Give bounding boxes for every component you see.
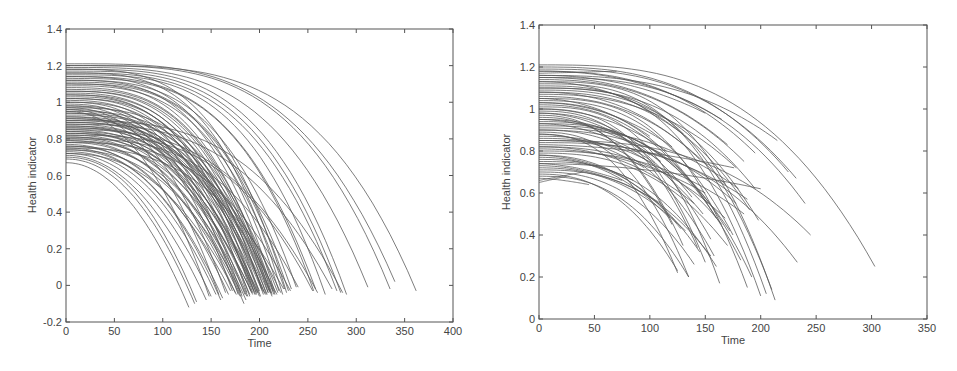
y-tick-label: 0.2	[47, 243, 62, 255]
y-tick-label: 1.4	[520, 19, 535, 31]
y-tick-label: 0.4	[520, 229, 535, 241]
chart-left-curves	[66, 64, 416, 308]
x-tick-label: 50	[588, 322, 600, 334]
y-tick-label: 0.6	[47, 170, 62, 182]
x-tick-label: 250	[807, 322, 825, 334]
chart-left-ticks	[66, 29, 453, 322]
x-tick-label: 0	[63, 325, 69, 337]
degradation-curve	[66, 159, 195, 304]
chart-right-svg: 05010015020025030035000.20.40.60.811.21.…	[478, 0, 957, 371]
y-tick-label: 0.6	[520, 187, 535, 199]
x-tick-label: 200	[250, 325, 268, 337]
x-tick-label: 250	[299, 325, 317, 337]
x-tick-label: 150	[696, 322, 714, 334]
chart-right-xlabel: Time	[721, 334, 745, 346]
degradation-curve	[66, 154, 211, 297]
y-tick-label: 0.2	[520, 271, 535, 283]
y-tick-label: 1.4	[47, 23, 62, 35]
y-tick-label: 0.8	[520, 145, 535, 157]
degradation-curve	[66, 86, 285, 289]
chart-right-curves	[539, 65, 875, 300]
y-tick-label: 0.4	[47, 206, 62, 218]
chart-right-degradation-paths: 05010015020025030035000.20.40.60.811.21.…	[478, 0, 957, 371]
degradation-curve	[539, 172, 694, 264]
chart-right-ylabel: Health indicator	[500, 133, 512, 210]
y-tick-label: 0	[529, 313, 535, 325]
y-tick-label: 1	[529, 103, 535, 115]
x-tick-label: 50	[108, 325, 120, 337]
degradation-curve	[539, 174, 678, 271]
x-tick-label: 350	[918, 322, 936, 334]
x-tick-label: 100	[154, 325, 172, 337]
y-tick-label: 1.2	[520, 61, 535, 73]
x-tick-label: 200	[752, 322, 770, 334]
chart-right-tick-labels: 05010015020025030035000.20.40.60.811.21.…	[520, 19, 936, 334]
x-tick-label: 300	[862, 322, 880, 334]
chart-left-degradation-paths: 050100150200250300350400-0.200.20.40.60.…	[0, 0, 478, 371]
chart-left-xlabel: Time	[247, 337, 271, 349]
chart-left-frame	[66, 29, 453, 322]
x-tick-label: 150	[202, 325, 220, 337]
y-tick-label: 1.2	[47, 60, 62, 72]
chart-left-svg: 050100150200250300350400-0.200.20.40.60.…	[0, 0, 478, 371]
x-tick-label: 100	[641, 322, 659, 334]
x-tick-label: 0	[536, 322, 542, 334]
y-tick-label: 1	[56, 96, 62, 108]
x-tick-label: 400	[444, 325, 462, 337]
x-tick-label: 300	[347, 325, 365, 337]
degradation-curve	[539, 166, 661, 204]
chart-left-ylabel: Health indicator	[26, 136, 38, 213]
y-tick-label: -0.2	[43, 316, 62, 328]
y-tick-label: 0	[56, 279, 62, 291]
y-tick-label: 0.8	[47, 133, 62, 145]
x-tick-label: 350	[395, 325, 413, 337]
